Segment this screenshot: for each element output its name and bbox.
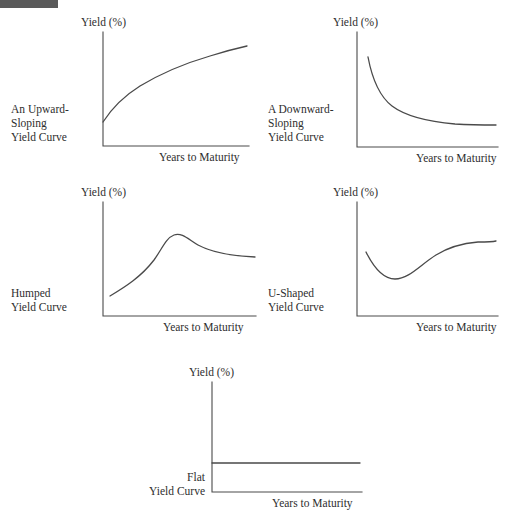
panel-downward-sloping [357,32,498,147]
yield-curve-figure: Yield (%) An Upward- Sloping Yield Curve… [0,0,523,516]
panel-title-downward-sloping: A Downward- Sloping Yield Curve [268,102,333,144]
x-axis-label-humped: Years to Maturity [163,320,244,334]
panel-title-upward-sloping: An Upward- Sloping Yield Curve [11,102,69,144]
panel-title-flat: Flat Yield Curve [85,470,205,498]
panel-flat [212,382,362,492]
plot-layer [0,0,523,516]
y-axis-label-upward-sloping: Yield (%) [81,15,126,29]
curve-humped [110,234,255,296]
curve-upward-sloping [103,46,247,122]
x-axis-label-upward-sloping: Years to Maturity [159,150,240,164]
panel-upward-sloping [103,32,249,146]
axes-flat [212,382,362,492]
y-axis-label-downward-sloping: Yield (%) [333,15,378,29]
axes-humped [103,202,256,316]
panel-humped [103,202,256,316]
y-axis-label-flat: Yield (%) [189,365,234,379]
axes-u-shaped [357,202,498,316]
panel-title-u-shaped: U-Shaped Yield Curve [268,286,324,314]
curve-downward-sloping [368,57,496,125]
axes-upward-sloping [103,32,249,146]
x-axis-label-flat: Years to Maturity [272,496,353,510]
curve-u-shaped [366,241,496,279]
panel-title-humped: Humped Yield Curve [11,286,67,314]
x-axis-label-u-shaped: Years to Maturity [416,320,497,334]
y-axis-label-humped: Yield (%) [81,185,126,199]
y-axis-label-u-shaped: Yield (%) [333,185,378,199]
x-axis-label-downward-sloping: Years to Maturity [416,151,497,165]
panel-u-shaped [357,202,498,316]
